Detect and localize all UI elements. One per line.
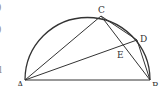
cropped-text-fragment: l <box>0 65 2 75</box>
segment-cd <box>101 16 137 40</box>
point-label-e: E <box>117 50 124 60</box>
point-label-d: D <box>140 34 147 44</box>
cropped-text-fragment: ) <box>0 2 2 12</box>
segment-bc <box>101 16 150 80</box>
point-label-b: B <box>152 81 159 86</box>
segment-bd <box>137 40 150 80</box>
segment-ad <box>25 40 137 80</box>
cropped-text-fragment: ) <box>0 24 2 34</box>
point-label-a: A <box>16 80 24 86</box>
segment-ac <box>25 16 101 80</box>
geometry-figure: ) ) l A B C D E <box>0 0 163 86</box>
point-label-c: C <box>98 5 105 15</box>
